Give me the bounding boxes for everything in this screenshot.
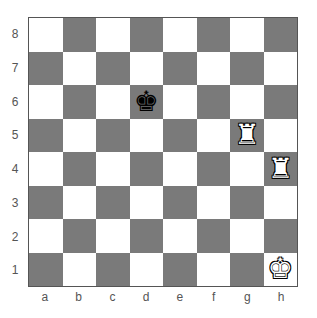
square-a7[interactable]	[29, 52, 63, 86]
square-a1[interactable]	[29, 253, 63, 287]
square-a8[interactable]	[29, 18, 63, 52]
rank-label-3: 3	[8, 196, 22, 210]
square-a5[interactable]	[29, 119, 63, 153]
square-a6[interactable]	[29, 85, 63, 119]
square-f7[interactable]	[197, 52, 231, 86]
square-f5[interactable]	[197, 119, 231, 153]
square-d2[interactable]	[130, 219, 164, 253]
square-c4[interactable]	[96, 152, 130, 186]
file-label-c: c	[96, 290, 130, 304]
file-label-f: f	[197, 290, 231, 304]
square-e4[interactable]	[163, 152, 197, 186]
square-c7[interactable]	[96, 52, 130, 86]
file-label-b: b	[62, 290, 96, 304]
square-g5[interactable]: ♜	[230, 119, 264, 153]
square-g3[interactable]	[230, 186, 264, 220]
square-d5[interactable]	[130, 119, 164, 153]
square-c1[interactable]	[96, 253, 130, 287]
square-d4[interactable]	[130, 152, 164, 186]
square-h4[interactable]: ♜	[264, 152, 298, 186]
square-e1[interactable]	[163, 253, 197, 287]
square-b2[interactable]	[63, 219, 97, 253]
square-b7[interactable]	[63, 52, 97, 86]
file-label-d: d	[129, 290, 163, 304]
square-c5[interactable]	[96, 119, 130, 153]
rank-label-7: 7	[8, 61, 22, 75]
square-g7[interactable]	[230, 52, 264, 86]
black-king-icon[interactable]: ♚	[134, 88, 159, 116]
square-d1[interactable]	[130, 253, 164, 287]
square-e6[interactable]	[163, 85, 197, 119]
rank-label-1: 1	[8, 263, 22, 277]
square-g2[interactable]	[230, 219, 264, 253]
file-label-e: e	[163, 290, 197, 304]
rank-label-4: 4	[8, 162, 22, 176]
file-label-g: g	[231, 290, 265, 304]
square-h3[interactable]	[264, 186, 298, 220]
square-e3[interactable]	[163, 186, 197, 220]
square-f6[interactable]	[197, 85, 231, 119]
square-a4[interactable]	[29, 152, 63, 186]
square-e7[interactable]	[163, 52, 197, 86]
square-d7[interactable]	[130, 52, 164, 86]
square-c6[interactable]	[96, 85, 130, 119]
square-f4[interactable]	[197, 152, 231, 186]
square-h5[interactable]	[264, 119, 298, 153]
rank-label-8: 8	[8, 27, 22, 41]
square-g1[interactable]	[230, 253, 264, 287]
square-b5[interactable]	[63, 119, 97, 153]
square-g4[interactable]	[230, 152, 264, 186]
square-h8[interactable]	[264, 18, 298, 52]
square-f2[interactable]	[197, 219, 231, 253]
square-h6[interactable]	[264, 85, 298, 119]
square-g6[interactable]	[230, 85, 264, 119]
square-d8[interactable]	[130, 18, 164, 52]
square-g8[interactable]	[230, 18, 264, 52]
square-a3[interactable]	[29, 186, 63, 220]
white-king-icon[interactable]: ♚	[268, 255, 293, 283]
rank-label-6: 6	[8, 95, 22, 109]
square-c3[interactable]	[96, 186, 130, 220]
square-b8[interactable]	[63, 18, 97, 52]
square-e8[interactable]	[163, 18, 197, 52]
square-h7[interactable]	[264, 52, 298, 86]
square-d6[interactable]: ♚	[130, 85, 164, 119]
square-c2[interactable]	[96, 219, 130, 253]
file-label-a: a	[28, 290, 62, 304]
square-b6[interactable]	[63, 85, 97, 119]
square-c8[interactable]	[96, 18, 130, 52]
rank-label-2: 2	[8, 230, 22, 244]
white-rook-icon[interactable]: ♜	[268, 155, 293, 183]
square-e2[interactable]	[163, 219, 197, 253]
square-d3[interactable]	[130, 186, 164, 220]
chess-board: ♚♜♜♚	[28, 17, 298, 287]
white-rook-icon[interactable]: ♜	[234, 121, 259, 149]
rank-label-5: 5	[8, 128, 22, 142]
square-f3[interactable]	[197, 186, 231, 220]
square-h2[interactable]	[264, 219, 298, 253]
square-a2[interactable]	[29, 219, 63, 253]
square-b1[interactable]	[63, 253, 97, 287]
square-f1[interactable]	[197, 253, 231, 287]
square-h1[interactable]: ♚	[264, 253, 298, 287]
square-b4[interactable]	[63, 152, 97, 186]
square-e5[interactable]	[163, 119, 197, 153]
square-b3[interactable]	[63, 186, 97, 220]
square-f8[interactable]	[197, 18, 231, 52]
file-label-h: h	[264, 290, 298, 304]
